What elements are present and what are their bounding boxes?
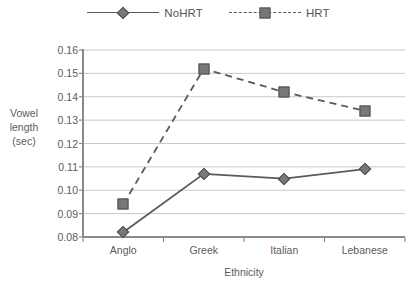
series-lines bbox=[123, 69, 365, 233]
y-tick-label: 0.13 bbox=[44, 114, 78, 126]
y-tick-label: 0.15 bbox=[44, 67, 78, 79]
y-axis-title-line-1: Vowel bbox=[2, 106, 46, 120]
x-axis-title: Ethnicity bbox=[83, 266, 405, 278]
x-tick-label-italian: Italian bbox=[270, 244, 298, 256]
plot-area: 0.160.150.140.130.120.110.100.090.08 Ang… bbox=[0, 0, 417, 290]
vowel-length-line-chart: NoHRT HRT 0.160.150.140.130.120.110.100.… bbox=[0, 0, 417, 290]
y-tick-label: 0.10 bbox=[44, 184, 78, 196]
y-tick-label: 0.09 bbox=[44, 208, 78, 220]
y-tick-label: 0.11 bbox=[44, 161, 78, 173]
y-axis-tick-labels: 0.160.150.140.130.120.110.100.090.08 bbox=[42, 0, 78, 290]
y-axis-title-line-3: (sec) bbox=[2, 134, 46, 148]
y-tick-label: 0.12 bbox=[44, 138, 78, 150]
y-tick-label: 0.14 bbox=[44, 91, 78, 103]
y-axis-title-line-2: length bbox=[2, 120, 46, 134]
series-line-hrt bbox=[123, 69, 365, 205]
series-line-nohrt bbox=[123, 169, 365, 232]
x-tick-label-anglo: Anglo bbox=[110, 244, 137, 256]
x-tick-label-greek: Greek bbox=[189, 244, 218, 256]
y-axis-title: Vowel length (sec) bbox=[2, 106, 46, 148]
y-tick-label: 0.16 bbox=[44, 44, 78, 56]
x-tick-label-lebanese: Lebanese bbox=[342, 244, 388, 256]
y-tick-label: 0.08 bbox=[44, 231, 78, 243]
gridlines bbox=[83, 50, 405, 237]
